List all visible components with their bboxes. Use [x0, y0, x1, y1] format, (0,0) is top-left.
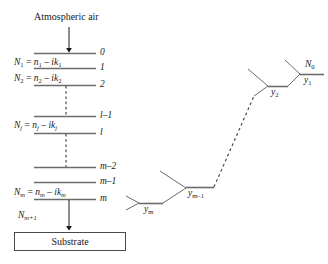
staircase-chevron-ym1-upper [160, 171, 186, 188]
formula-2-n-sub: 2 [39, 77, 42, 84]
formula-1-equals: = [26, 57, 34, 67]
formula-j-k-sub: j [55, 124, 57, 131]
staircase-riser-to-y2 [254, 86, 268, 96]
refractive-index-formula-layer-j: Nj = nj – ikj [14, 121, 57, 131]
staircase-chevron-ym-upper [126, 196, 139, 203]
formula-1-n: n [34, 57, 39, 67]
refractive-index-formula-layer-1: N1 = n1 – ik1 [14, 58, 61, 68]
boundary-index-m: m [100, 194, 107, 204]
formula-m-n-sub: m [40, 191, 45, 198]
staircase-dashed-diagonal [214, 96, 254, 187]
admittance-label-y2: y2 [271, 88, 279, 98]
formula-1-N-sub: 1 [20, 61, 23, 68]
boundary-index-l: l [100, 128, 103, 138]
formula-j-n-sub: j [37, 124, 39, 131]
boundary-index-2: 2 [100, 80, 105, 90]
admittance-y2-sub: 2 [275, 91, 278, 98]
admittance-label-y1: y1 [304, 76, 312, 86]
formula-2-equals: = [26, 73, 34, 83]
substrate-box-label: Substrate [51, 236, 88, 247]
substrate-index-sub: m+1 [24, 214, 37, 221]
admittance-label-ym-minus-1: ym–1 [188, 189, 204, 199]
boundary-index-m-minus-1: m–1 [100, 177, 116, 187]
formula-1-n-sub: 1 [39, 61, 42, 68]
staircase-chevron-y1-upper [285, 60, 300, 74]
staircase-riser-ym-to-ym1 [163, 188, 186, 203]
atmospheric-air-label: Atmospheric air [34, 12, 99, 22]
staircase-riser-to-y1 [288, 74, 300, 86]
refractive-index-formula-layer-2: N2 = n2 – ik2 [14, 74, 61, 84]
formula-m-N-sub: m [20, 191, 25, 198]
admittance-label-N0: N0 [305, 60, 315, 70]
formula-2-n: n [34, 73, 39, 83]
diagram-canvas [0, 0, 328, 264]
boundary-index-l-minus-1: l–1 [100, 111, 112, 121]
formula-1-k-sub: 1 [58, 61, 61, 68]
multilayer-thin-film-diagram: Atmospheric air 0 1 2 l–1 l m–2 m–1 m N1… [0, 0, 328, 264]
formula-m-k-sub: m [61, 191, 66, 198]
admittance-y1-sub: 1 [308, 79, 311, 86]
refractive-index-formula-layer-m: Nm = nm – ikm [14, 188, 66, 198]
admittance-label-ym: ym [144, 205, 153, 215]
staircase-chevron-y2-upper [248, 69, 268, 86]
admittance-N0-sub: 0 [311, 63, 314, 70]
formula-2-k-sub: 2 [58, 77, 61, 84]
substrate-box: Substrate [14, 232, 126, 251]
boundary-index-m-minus-2: m–2 [100, 162, 116, 172]
substrate-refractive-index-label: Nm+1 [18, 211, 37, 221]
formula-j-N-sub: j [20, 124, 22, 131]
boundary-index-1: 1 [100, 63, 105, 73]
admittance-ym1-sub: m–1 [192, 192, 204, 199]
staircase-chevron-ym-lower [126, 203, 139, 210]
formula-2-N-sub: 2 [20, 77, 23, 84]
boundary-index-0: 0 [100, 48, 105, 58]
admittance-ym-sub: m [148, 208, 153, 215]
